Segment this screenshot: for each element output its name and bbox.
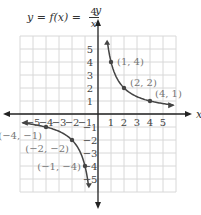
point-marker (70, 138, 74, 142)
y-tick-label: 4 (87, 57, 93, 68)
x-axis-arrow-icon (3, 111, 10, 117)
point-marker (122, 86, 126, 90)
x-tick-label: 2 (121, 117, 127, 128)
point-marker (148, 99, 152, 103)
y-tick-label: 1 (87, 96, 93, 107)
y-tick-label: −3 (83, 148, 98, 159)
y-tick-label: 2 (87, 83, 93, 94)
point-label: (−1, −4) (37, 161, 81, 172)
y-tick-label: 5 (87, 44, 93, 55)
point-label: (−4, −1) (0, 130, 42, 141)
x-axis-arrow-icon (185, 111, 192, 117)
y-tick-label: −1 (83, 122, 98, 133)
x-axis-label: x (196, 108, 201, 121)
y-tick-label: −5 (83, 174, 98, 185)
point-label: (2, 2) (130, 77, 157, 88)
point-label: (4, 1) (155, 88, 182, 99)
point-label: (1, 4) (117, 56, 144, 67)
y-tick-label: −4 (83, 161, 98, 172)
y-axis-label: y (94, 4, 102, 17)
x-tick-label: 3 (134, 117, 140, 128)
x-tick-label: 1 (108, 117, 114, 128)
y-tick-label: −2 (83, 135, 98, 146)
y-axis-arrow-icon (95, 202, 101, 209)
y-tick-label: 3 (87, 70, 93, 81)
x-tick-label: 5 (160, 117, 166, 128)
y-axis-arrow-icon (95, 19, 101, 26)
point-label: (−2, −2) (25, 143, 69, 154)
coordinate-graph: xy (1, 4)(2, 2)(4, 1)(−4, −1)(−2, −2)(−1… (0, 0, 201, 215)
point-marker (109, 60, 113, 64)
curve-arrow-icon (168, 102, 175, 108)
x-tick-label: 4 (147, 117, 153, 128)
curve-arrow-icon (104, 40, 110, 45)
